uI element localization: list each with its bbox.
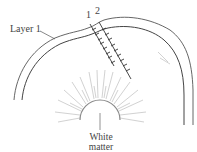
cortex-diagram: Layer 1 1 2 White matter bbox=[0, 0, 197, 152]
outer-cortex-surface bbox=[14, 17, 193, 125]
white-matter-label: White matter bbox=[88, 132, 114, 152]
penetration-2-label: 2 bbox=[95, 6, 100, 16]
penetration-1-label: 1 bbox=[86, 10, 91, 20]
layer1-pointer bbox=[40, 31, 55, 39]
layer1-boundary bbox=[22, 27, 184, 126]
white-matter-label-line2: matter bbox=[88, 142, 114, 152]
penetration-1-track bbox=[90, 24, 115, 66]
white-matter-label-line1: White bbox=[88, 132, 114, 142]
layer1-label: Layer 1 bbox=[10, 24, 41, 34]
penetration-2-track bbox=[99, 22, 131, 79]
